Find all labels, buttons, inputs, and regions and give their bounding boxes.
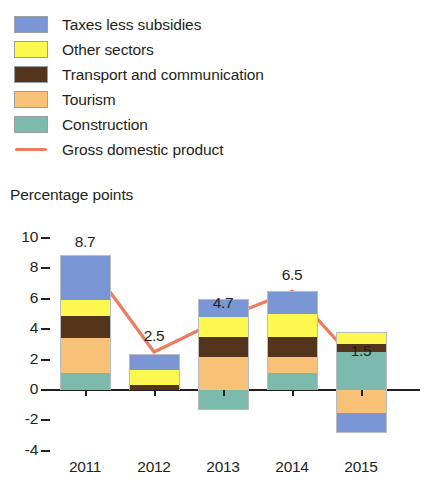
y-axis-tick-mark — [41, 267, 50, 269]
y-axis-tick-label: 0 — [2, 382, 38, 396]
x-axis-tick-label: 2012 — [119, 458, 189, 476]
bar-segment — [60, 373, 111, 390]
y-axis-tick-mark — [41, 419, 50, 421]
bar-segment — [267, 357, 318, 374]
bar-stack[interactable] — [198, 0, 249, 483]
y-axis-tick-label: 6 — [2, 291, 38, 305]
x-axis-tick-mark — [154, 390, 156, 396]
x-axis-tick-mark — [85, 390, 87, 396]
bar-stack[interactable] — [129, 0, 180, 483]
y-axis-tick-mark — [41, 298, 50, 300]
data-value-label: 6.5 — [262, 266, 322, 284]
bar-stack[interactable] — [267, 0, 318, 483]
y-axis-tick-label: 2 — [2, 352, 38, 366]
bar-segment — [129, 354, 180, 371]
bar-segment — [336, 413, 387, 433]
bar-top-cap — [60, 255, 111, 256]
bar-top-cap — [336, 332, 387, 333]
x-axis-tick-label: 2011 — [50, 458, 120, 476]
plot-area: 1086420-2-420118.720122.520134.720146.52… — [0, 0, 423, 483]
data-value-label: 2.5 — [124, 327, 184, 345]
bar-segment — [129, 370, 180, 385]
bar-bottom-cap — [336, 432, 387, 433]
x-axis-tick-label: 2014 — [257, 458, 327, 476]
bar-segment — [60, 255, 111, 301]
x-axis-tick-mark — [292, 390, 294, 396]
chart-container: Taxes less subsidiesOther sectorsTranspo… — [0, 0, 423, 483]
bar-segment — [198, 317, 249, 337]
y-axis-tick-label: -2 — [2, 412, 38, 426]
y-axis-tick-label: 10 — [2, 230, 38, 244]
bar-segment — [267, 373, 318, 390]
y-axis-tick-mark — [41, 450, 50, 452]
bar-segment — [198, 357, 249, 390]
bar-segment — [60, 316, 111, 339]
data-value-label: 4.7 — [193, 294, 253, 312]
data-value-label: 1.5 — [331, 342, 391, 360]
bar-top-cap — [129, 354, 180, 355]
bar-segment — [198, 337, 249, 357]
x-axis-tick-label: 2015 — [326, 458, 396, 476]
bar-segment — [60, 338, 111, 373]
bar-top-cap — [267, 291, 318, 292]
data-value-label: 8.7 — [55, 233, 115, 251]
bar-segment — [267, 291, 318, 314]
y-axis-tick-mark — [41, 237, 50, 239]
x-axis-tick-mark — [361, 390, 363, 396]
x-axis-tick-label: 2013 — [188, 458, 258, 476]
x-axis-tick-mark — [223, 390, 225, 396]
bar-segment — [60, 300, 111, 315]
y-axis-tick-label: 8 — [2, 260, 38, 274]
bar-stack[interactable] — [336, 0, 387, 483]
bar-segment — [267, 314, 318, 337]
y-axis-tick-mark — [41, 328, 50, 330]
y-axis-tick-label: -4 — [2, 443, 38, 457]
bar-segment — [267, 337, 318, 357]
y-axis-tick-label: 4 — [2, 321, 38, 335]
y-axis-tick-mark — [41, 359, 50, 361]
bar-bottom-cap — [198, 409, 249, 410]
